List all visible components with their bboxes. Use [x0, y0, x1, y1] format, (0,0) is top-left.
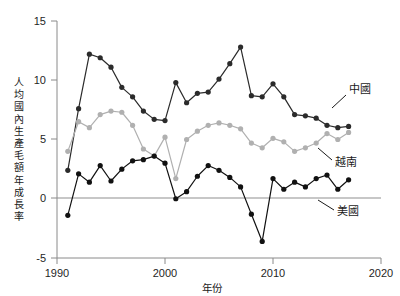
data-point-china-2016[interactable] — [335, 125, 340, 130]
data-point-vietnam-2015[interactable] — [324, 131, 329, 136]
data-point-vietnam-1994[interactable] — [98, 112, 103, 117]
data-point-usa-1995[interactable] — [108, 178, 113, 183]
data-point-usa-2016[interactable] — [335, 187, 340, 192]
data-point-china-2013[interactable] — [303, 113, 308, 118]
x-axis-ticks — [57, 258, 381, 264]
data-point-china-2007[interactable] — [238, 44, 243, 49]
data-point-usa-1992[interactable] — [76, 171, 81, 176]
data-point-china-2006[interactable] — [227, 61, 232, 66]
data-point-vietnam-1997[interactable] — [130, 123, 135, 128]
data-point-vietnam-2016[interactable] — [335, 137, 340, 142]
data-point-vietnam-2009[interactable] — [260, 145, 265, 150]
data-point-usa-1994[interactable] — [98, 163, 103, 168]
data-point-china-1991[interactable] — [65, 168, 70, 173]
data-point-vietnam-2002[interactable] — [184, 137, 189, 142]
data-point-usa-2004[interactable] — [206, 163, 211, 168]
data-point-china-2002[interactable] — [184, 100, 189, 105]
data-point-vietnam-1995[interactable] — [108, 108, 113, 113]
data-point-china-2015[interactable] — [324, 123, 329, 128]
series-label-vietnam: 越南 — [335, 155, 357, 169]
data-point-usa-2015[interactable] — [324, 172, 329, 177]
data-point-usa-1993[interactable] — [87, 180, 92, 185]
data-point-usa-2017[interactable] — [346, 177, 351, 182]
usa-leader-line — [318, 200, 334, 210]
data-point-vietnam-1996[interactable] — [119, 110, 124, 115]
y-tick-label-neg5: -5 — [36, 252, 46, 264]
data-point-usa-1991[interactable] — [65, 213, 70, 218]
data-point-vietnam-2003[interactable] — [195, 129, 200, 134]
series-line-usa — [68, 156, 349, 241]
data-point-usa-2010[interactable] — [270, 176, 275, 181]
data-point-china-2017[interactable] — [346, 124, 351, 129]
data-point-china-2011[interactable] — [281, 94, 286, 99]
data-point-usa-2005[interactable] — [216, 168, 221, 173]
data-point-vietnam-1998[interactable] — [141, 146, 146, 151]
data-point-china-1995[interactable] — [108, 65, 113, 70]
y-axis-title: 人均國內生產毛額年成長率 — [14, 77, 24, 222]
data-point-usa-2007[interactable] — [238, 184, 243, 189]
y-axis-title-char: 產 — [14, 137, 24, 149]
data-point-china-2010[interactable] — [270, 81, 275, 86]
data-point-vietnam-1992[interactable] — [76, 119, 81, 124]
data-point-china-1998[interactable] — [141, 108, 146, 113]
data-point-vietnam-2014[interactable] — [314, 140, 319, 145]
y-axis-title-char: 生 — [14, 125, 24, 137]
data-point-usa-2006[interactable] — [227, 175, 232, 180]
vietnam-leader-line — [318, 148, 332, 160]
data-point-china-2000[interactable] — [162, 118, 167, 123]
data-point-china-1994[interactable] — [98, 55, 103, 60]
data-point-vietnam-2008[interactable] — [249, 140, 254, 145]
data-point-vietnam-2010[interactable] — [270, 136, 275, 141]
series-china — [65, 44, 351, 172]
data-point-china-2004[interactable] — [206, 90, 211, 95]
data-point-vietnam-2007[interactable] — [238, 126, 243, 131]
data-point-china-2001[interactable] — [173, 80, 178, 85]
y-axis-title-char: 率 — [14, 210, 24, 222]
y-axis-title-char: 年 — [14, 174, 24, 186]
data-point-vietnam-2006[interactable] — [227, 123, 232, 128]
data-point-china-2009[interactable] — [260, 94, 265, 99]
data-point-vietnam-2001[interactable] — [173, 176, 178, 181]
data-point-vietnam-2004[interactable] — [206, 123, 211, 128]
data-point-china-1993[interactable] — [87, 52, 92, 57]
y-axis-title-char: 內 — [14, 114, 24, 125]
data-point-usa-2012[interactable] — [292, 180, 297, 185]
data-point-china-1992[interactable] — [76, 106, 81, 111]
data-point-usa-2002[interactable] — [184, 189, 189, 194]
data-point-china-2008[interactable] — [249, 93, 254, 98]
data-point-usa-2003[interactable] — [195, 174, 200, 179]
data-point-china-2012[interactable] — [292, 112, 297, 117]
data-point-usa-2014[interactable] — [314, 176, 319, 181]
data-point-china-1997[interactable] — [130, 94, 135, 99]
data-point-vietnam-2011[interactable] — [281, 139, 286, 144]
y-tick-label-15: 15 — [34, 15, 46, 27]
data-point-usa-1996[interactable] — [119, 167, 124, 172]
y-axis-title-char: 長 — [14, 199, 24, 210]
data-point-usa-2011[interactable] — [281, 187, 286, 192]
data-point-china-2003[interactable] — [195, 91, 200, 96]
data-point-usa-1997[interactable] — [130, 158, 135, 163]
data-point-china-2014[interactable] — [314, 116, 319, 121]
data-point-usa-2001[interactable] — [173, 196, 178, 201]
data-point-usa-2009[interactable] — [260, 239, 265, 244]
data-point-vietnam-2000[interactable] — [162, 135, 167, 140]
y-axis-title-char: 成 — [14, 187, 24, 198]
data-point-china-1999[interactable] — [152, 117, 157, 122]
data-point-usa-2013[interactable] — [303, 184, 308, 189]
data-point-usa-1998[interactable] — [141, 157, 146, 162]
y-axis-ticks — [51, 21, 57, 258]
data-point-china-1996[interactable] — [119, 85, 124, 90]
data-point-vietnam-2012[interactable] — [292, 149, 297, 154]
series-label-usa: 美國 — [337, 205, 359, 218]
data-point-vietnam-2013[interactable] — [303, 145, 308, 150]
data-point-vietnam-1993[interactable] — [87, 125, 92, 130]
data-point-usa-1999[interactable] — [152, 153, 157, 158]
data-point-vietnam-1991[interactable] — [65, 149, 70, 154]
data-point-vietnam-2017[interactable] — [346, 130, 351, 135]
data-point-usa-2000[interactable] — [162, 161, 167, 166]
data-point-vietnam-2005[interactable] — [216, 120, 221, 125]
data-point-china-2005[interactable] — [216, 76, 221, 81]
annotation-leaders — [318, 95, 346, 210]
y-axis-title-char: 額 — [14, 161, 24, 173]
data-point-usa-2008[interactable] — [249, 212, 254, 217]
